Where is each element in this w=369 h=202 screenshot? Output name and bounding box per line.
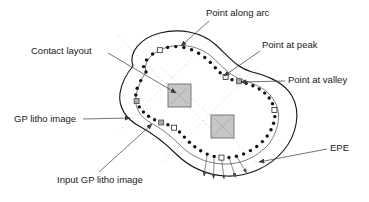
point-along-arc-marker <box>139 79 142 82</box>
point-at-valley-marker <box>134 99 139 104</box>
point-along-arc-marker <box>145 58 148 61</box>
point-at-valley-marker <box>159 120 164 125</box>
point-along-arc-marker <box>266 134 269 137</box>
point-along-arc-marker <box>147 115 150 118</box>
point-along-arc-marker <box>188 141 191 144</box>
sampled-points-group <box>134 45 277 160</box>
point-along-arc-marker <box>219 71 222 74</box>
label-point-at-peak: Point at peak <box>262 39 318 50</box>
figure-canvas: Contact layout Point along arc Point at … <box>0 0 369 202</box>
point-along-arc-marker <box>263 91 266 94</box>
point-along-arc-marker <box>134 93 137 96</box>
point-along-arc-marker <box>269 128 272 131</box>
point-along-arc-marker <box>251 84 254 87</box>
label-gp-litho-image: GP litho image <box>14 113 76 124</box>
point-along-arc-marker <box>271 102 274 105</box>
point-along-arc-marker <box>174 45 177 48</box>
point-along-arc-marker <box>268 96 271 99</box>
point-along-arc-marker <box>144 70 147 73</box>
point-along-arc-marker <box>249 149 252 152</box>
point-along-arc-marker <box>153 118 156 121</box>
contact-layout-leader <box>108 53 176 93</box>
point-along-arc-marker <box>197 52 200 55</box>
point-along-arc-marker <box>261 140 264 143</box>
point-along-arc-marker <box>206 152 209 155</box>
point-along-arc-marker <box>136 87 139 90</box>
point-along-arc-marker <box>151 52 154 55</box>
point-along-arc-marker <box>230 78 233 81</box>
label-point-at-valley: Point at valley <box>288 74 347 85</box>
point-along-arc-marker <box>273 115 276 118</box>
gp-litho-image-leader <box>83 118 130 119</box>
point-at-peak-marker <box>157 48 162 53</box>
point-along-arc-leader <box>181 21 209 46</box>
epe-arrow <box>236 156 246 173</box>
point-along-arc-marker <box>209 61 212 64</box>
point-along-arc-marker <box>235 155 238 158</box>
point-along-arc-marker <box>182 46 185 49</box>
epe-leader <box>259 149 327 162</box>
point-along-arc-marker <box>199 149 202 152</box>
point-at-peak-marker <box>172 125 177 130</box>
point-along-arc-marker <box>193 145 196 148</box>
point-at-peak-marker <box>219 155 224 160</box>
point-along-arc-marker <box>214 66 217 69</box>
point-along-arc-marker <box>142 65 145 68</box>
label-contact-layout: Contact layout <box>31 45 92 56</box>
label-point-along-arc: Point along arc <box>206 7 270 18</box>
contact-layout-squares <box>168 84 234 138</box>
point-along-arc-marker <box>227 156 230 159</box>
point-at-peak-marker <box>272 108 277 113</box>
point-along-arc-marker <box>183 135 186 138</box>
epe-arrow <box>214 156 215 178</box>
point-along-arc-marker <box>138 105 141 108</box>
point-at-valley-marker <box>237 79 242 84</box>
label-input-gp-litho-image: Input GP litho image <box>57 174 143 185</box>
input-gp-litho-image-leader <box>99 124 152 172</box>
point-along-arc-marker <box>255 145 258 148</box>
point-along-arc-marker <box>203 56 206 59</box>
point-along-arc-marker <box>213 155 216 158</box>
point-along-arc-marker <box>166 46 169 49</box>
label-epe: EPE <box>330 142 349 153</box>
epe-arrow <box>229 158 236 178</box>
point-along-arc-marker <box>272 122 275 125</box>
point-along-arc-marker <box>166 123 169 126</box>
point-along-arc-marker <box>178 130 181 133</box>
point-along-arc-marker <box>190 48 193 51</box>
point-along-arc-marker <box>242 152 245 155</box>
point-along-arc-marker <box>258 87 261 90</box>
point-along-arc-marker <box>142 110 145 113</box>
